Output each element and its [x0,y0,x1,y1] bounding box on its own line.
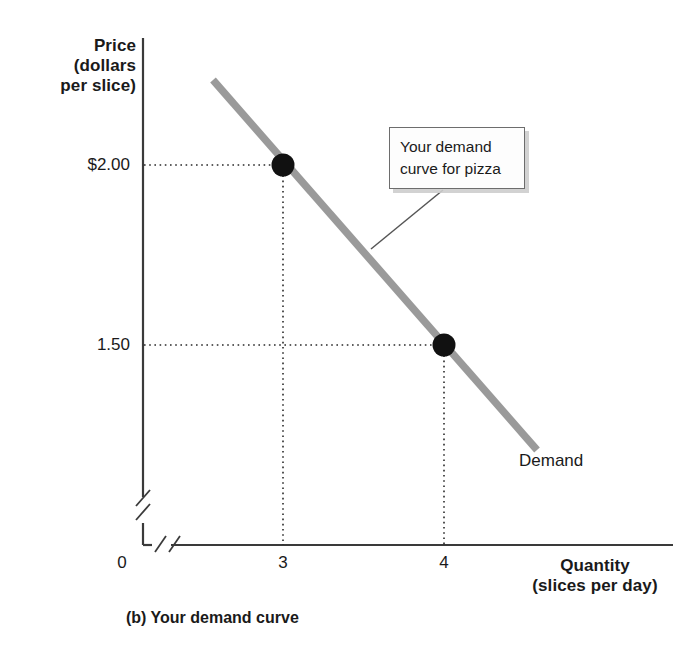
data-point-marker [433,334,456,357]
data-point-marker [272,154,295,177]
y-tick-label-1-50: 1.50 [58,335,130,355]
callout-text: Your demand curve for pizza [400,136,501,180]
demand-curve-label: Demand [519,451,583,471]
y-axis-break-mark [136,504,150,520]
x-axis-title: Quantity (slices per day) [497,556,693,596]
y-axis-title: Price (dollars per slice) [0,36,136,96]
x-tick-label-4: 4 [427,553,461,573]
x-tick-label-3: 3 [266,553,300,573]
callout-leader-line [371,190,443,249]
demand-curve-figure: Price (dollars per slice) Quantity (slic… [0,0,697,656]
x-axis-break-mark [155,536,166,552]
x-tick-label-0: 0 [105,553,139,573]
y-tick-label-2-00: $2.00 [58,155,130,175]
figure-caption: (b) Your demand curve [126,609,299,628]
callout-box: Your demand curve for pizza [389,127,525,189]
